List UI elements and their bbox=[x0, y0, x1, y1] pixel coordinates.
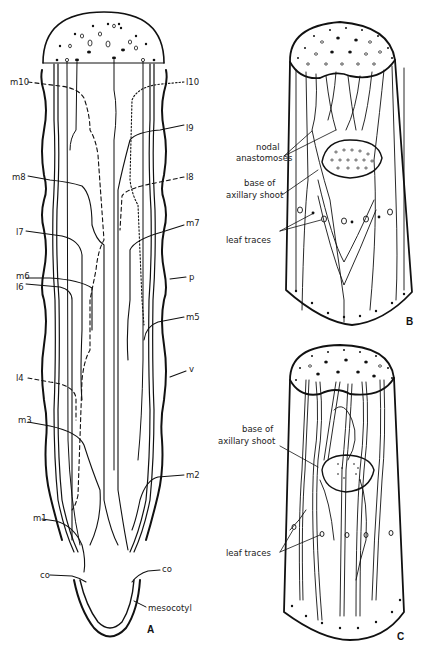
panel-b-vascular-bundles bbox=[296, 66, 404, 322]
label-b-nodal: nodal bbox=[256, 142, 280, 152]
label-c-axillary-shoot: axillary shoot bbox=[218, 436, 276, 446]
label-p: p bbox=[189, 272, 194, 282]
panel-b-diagram: nodal anastomoses base of axillary shoot… bbox=[226, 22, 413, 327]
label-m2: m2 bbox=[186, 470, 200, 480]
label-m10: m10 bbox=[10, 77, 29, 87]
panel-a-trace-l6 bbox=[26, 284, 72, 540]
panel-b-label: B bbox=[406, 316, 413, 327]
panel-a-vascular-right-outer bbox=[134, 64, 155, 552]
label-c-base-of: base of bbox=[242, 424, 274, 434]
panel-a-trace-m2 bbox=[132, 475, 184, 530]
panel-c-diagram: base of axillary shoot leaf traces C bbox=[218, 345, 404, 642]
panel-c-axillary-dots bbox=[337, 463, 361, 481]
panel-c-vascular-bundles bbox=[290, 380, 385, 620]
label-m6: m6 bbox=[16, 271, 30, 281]
figure-canvas: m10 l10 l9 m8 l8 l7 m7 m6 l6 p m5 v l4 m… bbox=[0, 0, 422, 650]
panel-c-leaf-trace-markers bbox=[292, 525, 393, 538]
label-co-left: co bbox=[40, 570, 50, 580]
panel-a-pointer-p bbox=[170, 277, 186, 279]
label-v: v bbox=[189, 364, 194, 374]
label-l10: l10 bbox=[186, 77, 199, 87]
label-c-leaf-traces: leaf traces bbox=[226, 548, 271, 558]
panel-a-trace-m1 bbox=[42, 519, 85, 572]
panel-c-label: C bbox=[397, 631, 404, 642]
label-b-base-of: base of bbox=[244, 178, 276, 188]
label-l8: l8 bbox=[186, 172, 194, 182]
panel-a-cap-bundles bbox=[56, 23, 156, 62]
panel-a-cross-section-cap bbox=[43, 12, 164, 63]
label-b-leaf-traces: leaf traces bbox=[226, 235, 271, 245]
panel-a-trace-l7 bbox=[26, 231, 82, 400]
panel-b-leaf-trace-markers bbox=[298, 207, 393, 224]
panel-a-diagram: m10 l10 l9 m8 l8 l7 m7 m6 l6 p m5 v l4 m… bbox=[10, 12, 200, 637]
panel-b-cross-section-top bbox=[290, 22, 395, 78]
panel-a-strand-3 bbox=[114, 60, 116, 470]
panel-b-axillary-bundles bbox=[331, 149, 374, 169]
label-l9: l9 bbox=[186, 123, 194, 133]
label-b-anastomoses: anastomoses bbox=[236, 153, 293, 163]
label-l7: l7 bbox=[16, 227, 24, 237]
label-m5: m5 bbox=[186, 312, 200, 322]
label-co-right: co bbox=[162, 564, 172, 574]
label-mesocotyl: mesocotyl bbox=[148, 603, 192, 613]
label-m8: m8 bbox=[12, 172, 26, 182]
label-b-axillary-shoot: axillary shoot bbox=[226, 190, 284, 200]
panel-a-trace-m10 bbox=[28, 82, 104, 510]
label-l4: l4 bbox=[16, 373, 24, 383]
panel-c-axillary-shoot bbox=[322, 455, 374, 492]
panel-a-pointer-v bbox=[170, 371, 186, 377]
label-l6: l6 bbox=[16, 282, 24, 292]
label-m1: m1 bbox=[33, 513, 47, 523]
label-m3: m3 bbox=[18, 415, 32, 425]
panel-a-trace-m5 bbox=[144, 317, 184, 340]
label-m7: m7 bbox=[186, 218, 200, 228]
panel-a-trace-l8 bbox=[120, 177, 184, 230]
panel-a-strand-2 bbox=[70, 62, 77, 150]
panel-a-trace-co-right bbox=[132, 570, 160, 582]
panel-a-label: A bbox=[147, 624, 154, 635]
panel-b-bottom-dots bbox=[295, 290, 405, 318]
panel-a-trace-l4 bbox=[28, 378, 76, 420]
panel-a-vascular-left-outer bbox=[53, 64, 74, 552]
panel-a-trace-l10 bbox=[130, 82, 184, 325]
panel-c-bottom-dots bbox=[291, 599, 401, 629]
